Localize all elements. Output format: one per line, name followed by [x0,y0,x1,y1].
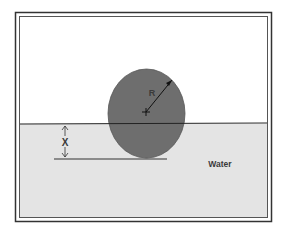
water-label: Water [208,159,232,169]
radius-label: R [149,88,156,98]
buoyancy-diagram: X R Water [0,0,286,232]
depth-label: X [62,137,69,148]
